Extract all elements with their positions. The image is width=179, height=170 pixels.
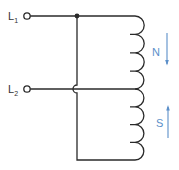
wires: [30, 16, 135, 160]
arrow-down-head-icon: [165, 60, 169, 66]
coil-section-s: [130, 89, 144, 160]
terminal-l2: L2: [8, 83, 30, 97]
pole-s-indicator: S: [156, 105, 170, 138]
terminal-l1-label: L1: [8, 10, 18, 24]
coil-section-n: [130, 16, 144, 89]
wire-vertical-return: [73, 16, 135, 160]
arrow-up-head-icon: [166, 105, 170, 111]
pole-n-indicator: N: [152, 33, 169, 66]
pole-s-label: S: [156, 117, 163, 129]
pole-n-label: N: [152, 46, 160, 58]
junction-dot: [75, 14, 80, 19]
circuit-diagram: L1 L2 N S: [0, 0, 179, 170]
terminal-l1: L1: [8, 10, 30, 24]
terminal-l2-label: L2: [8, 83, 18, 97]
terminal-l1-circle-icon: [24, 13, 30, 19]
terminal-l2-circle-icon: [24, 86, 30, 92]
